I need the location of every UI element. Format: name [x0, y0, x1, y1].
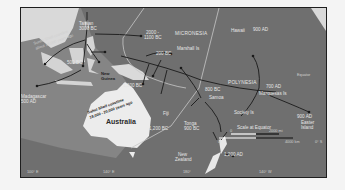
label-new-guinea-2: Guinea [101, 76, 115, 81]
label-society: Society Is [234, 110, 254, 115]
scale-title: Scale at Equator [237, 125, 271, 130]
date-hawaii: 900 AD [253, 27, 268, 32]
date-new-zealand: 1,200 AD [224, 152, 243, 157]
pacific-migration-map: Taiwan 3000 BC 2000 - 1100 BC MICRONESIA… [20, 7, 327, 178]
label-new-zealand-2: Zealand [175, 157, 192, 162]
graticule-lon-1: 100° E [27, 170, 38, 175]
graticule-lon-2: 140° E [103, 170, 114, 175]
region-polynesia: POLYNESIA [228, 80, 257, 85]
label-hawaii: Hawaii [231, 28, 245, 33]
scale-zero-top: 0 [230, 129, 232, 134]
scale-top-value: 2000 mi [269, 129, 283, 134]
date-marquesas: 700 AD [266, 84, 281, 89]
region-micronesia: MICRONESIA [175, 31, 207, 36]
graticule-lon-4: 140° W [259, 170, 272, 175]
date-madagascar: 500 AD [21, 99, 36, 104]
label-marshall: Marshall Is [177, 46, 199, 51]
date-marshall: 200 BC [156, 51, 171, 56]
date-taiwan: 3000 BC [79, 26, 97, 31]
scale-zero-bottom: 0 [218, 140, 220, 145]
date-samoa: 800 BC [205, 87, 220, 92]
graticule-lon-3: 180° [183, 170, 191, 175]
label-marquesas: Marquesas Is [259, 91, 287, 96]
graticule-lat-right: 0° S [315, 140, 322, 145]
date-easter: 900 AD [297, 114, 312, 119]
label-easter-2: Island [301, 125, 313, 130]
scale-bottom-value: 4000 km [285, 140, 300, 145]
label-fiji: Fiji [163, 111, 169, 116]
date-vanuatu: 1,200 BC [149, 126, 168, 131]
region-australia: Australia [106, 119, 136, 124]
scale-bar [219, 134, 293, 138]
label-equator: Equator [297, 73, 310, 78]
date-borneo: 500 BC [67, 60, 82, 65]
tasmania-island [129, 152, 135, 158]
new-zealand-south-island [205, 152, 221, 174]
label-samoa: Samoa [209, 95, 224, 100]
date-micronesia-2: 1100 BC [144, 35, 162, 40]
americas-landmass [311, 8, 327, 34]
date-tonga: 900 BC [184, 126, 199, 131]
date-bismarck: 1,300 BC [123, 83, 142, 88]
